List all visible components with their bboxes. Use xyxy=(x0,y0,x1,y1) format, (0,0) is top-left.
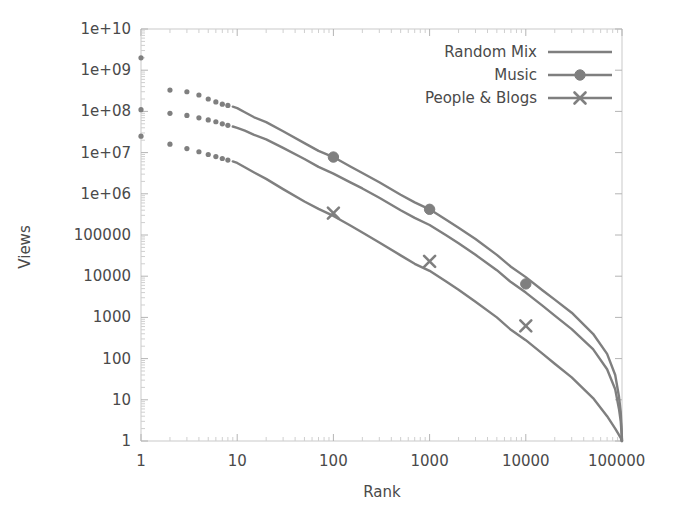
y-tick-label: 1e+06 xyxy=(81,185,131,203)
legend-label-3: People & Blogs xyxy=(425,89,537,107)
series-point xyxy=(220,121,225,126)
plot-frame xyxy=(141,29,622,441)
series-line-2 xyxy=(233,127,622,442)
series-point xyxy=(196,115,201,120)
series-point xyxy=(167,142,172,147)
series-1 xyxy=(138,55,622,441)
series-point xyxy=(206,152,211,157)
y-tick-label: 100 xyxy=(102,350,131,368)
legend-marker-circle xyxy=(575,70,585,80)
x-tick-label: 10000 xyxy=(502,452,550,470)
x-tick-label: 10 xyxy=(228,452,247,470)
y-tick-label: 1 xyxy=(121,432,131,450)
series-point xyxy=(184,146,189,151)
series-marker-circle xyxy=(328,152,338,162)
y-tick-label: 10000 xyxy=(83,267,131,285)
series-point xyxy=(225,123,230,128)
y-tick-label: 1e+10 xyxy=(81,20,131,38)
series-point xyxy=(196,149,201,154)
series-point xyxy=(206,117,211,122)
series-point xyxy=(213,119,218,124)
series-line-1 xyxy=(233,107,622,441)
series-point xyxy=(225,103,230,108)
series-point xyxy=(206,96,211,101)
legend-label-2: Music xyxy=(494,66,537,84)
series-marker-circle xyxy=(521,279,531,289)
series-layer xyxy=(138,55,622,441)
x-tick-labels: 110100100010000100000 xyxy=(136,452,645,470)
y-tick-label: 1e+07 xyxy=(81,144,131,162)
rank-views-log-log-chart: 110100100010000100000 110100100010000100… xyxy=(0,0,690,520)
series-point xyxy=(138,55,143,60)
x-tick-label: 1 xyxy=(136,452,146,470)
y-tick-label: 1000 xyxy=(93,308,131,326)
y-tick-label: 100000 xyxy=(74,226,131,244)
series-point xyxy=(184,113,189,118)
series-point xyxy=(220,102,225,107)
y-tick-label: 10 xyxy=(112,391,131,409)
x-tick-label: 100000 xyxy=(588,452,645,470)
series-point xyxy=(220,156,225,161)
series-point xyxy=(167,87,172,92)
chart-container: 110100100010000100000 110100100010000100… xyxy=(0,0,690,520)
y-axis-ticks xyxy=(141,29,622,441)
y-axis-title: Views xyxy=(16,225,34,269)
series-point xyxy=(196,92,201,97)
y-tick-labels: 1101001000100001000001e+061e+071e+081e+0… xyxy=(74,20,131,450)
series-line-3 xyxy=(233,161,622,441)
series-point xyxy=(138,134,143,139)
series-point xyxy=(213,99,218,104)
series-point xyxy=(213,154,218,159)
series-marker-x xyxy=(520,320,531,331)
x-tick-label: 100 xyxy=(319,452,348,470)
series-point xyxy=(138,107,143,112)
series-marker-x xyxy=(424,256,435,267)
y-tick-label: 1e+09 xyxy=(81,61,131,79)
series-point xyxy=(225,157,230,162)
x-axis-ticks xyxy=(141,29,622,441)
series-marker-circle xyxy=(424,204,434,214)
series-point xyxy=(167,111,172,116)
x-tick-label: 1000 xyxy=(411,452,449,470)
series-point xyxy=(184,89,189,94)
plot-border xyxy=(141,29,622,441)
legend: Random MixMusicPeople & Blogs xyxy=(425,43,612,107)
series-2 xyxy=(138,107,622,441)
y-tick-label: 1e+08 xyxy=(81,102,131,120)
series-3 xyxy=(138,134,622,441)
legend-label-1: Random Mix xyxy=(444,43,537,61)
x-axis-title: Rank xyxy=(363,483,401,501)
